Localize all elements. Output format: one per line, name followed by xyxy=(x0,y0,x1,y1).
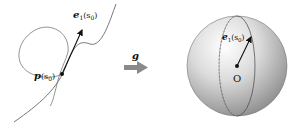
point-label: p(s0) xyxy=(34,70,55,82)
space-curve xyxy=(14,4,116,122)
tangent-vector-label: e1(s0) xyxy=(73,9,97,21)
diagram-canvas: p(s0) e1(s0) g O e1(s0) xyxy=(0,0,300,128)
origin-label: O xyxy=(233,73,241,84)
map-label: g xyxy=(132,50,139,61)
map-arrow-icon xyxy=(124,61,148,74)
diagram: p(s0) e1(s0) g O e1(s0) xyxy=(0,0,300,128)
sphere-vector-label: e1(s0) xyxy=(222,32,245,43)
